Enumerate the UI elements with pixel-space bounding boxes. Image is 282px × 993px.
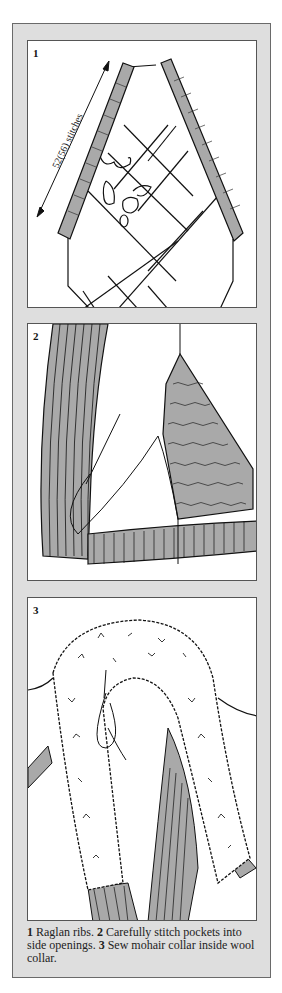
figure-caption: 1 Raglan ribs. 2 Carefully stitch pocket… (27, 926, 259, 965)
caption-step-1-text: Raglan ribs. (33, 925, 97, 939)
panel-mohair-collar: 3 (27, 597, 257, 921)
figure-frame: 1 (12, 23, 271, 978)
raglan-illustration: 52(56) stitches (28, 41, 257, 308)
panel-raglan-ribs: 1 (27, 40, 257, 308)
stitch-count-label: 52(56) stitches (50, 111, 86, 170)
pocket-illustration (28, 324, 257, 581)
panel-pocket-stitching: 2 (27, 323, 257, 581)
collar-illustration (28, 598, 257, 921)
